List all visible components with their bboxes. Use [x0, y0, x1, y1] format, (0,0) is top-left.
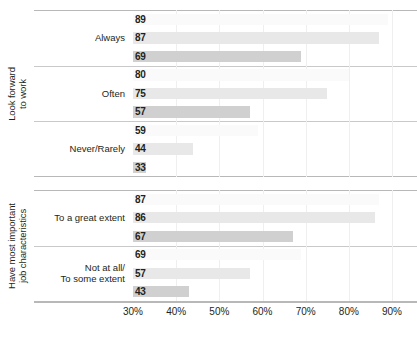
bar-track: 43: [133, 286, 417, 297]
group-axis-label-text-0: Look forwardto work: [6, 67, 28, 121]
bar-track: 69: [133, 249, 417, 260]
bar-value-label: 86: [135, 212, 146, 223]
bar-value-label: 75: [135, 88, 146, 99]
gridline-90: [392, 190, 393, 246]
bar-value-label: 69: [135, 51, 146, 62]
category-label-line: To some extent: [61, 273, 125, 284]
bar-value-label: 57: [135, 268, 146, 279]
bar-value-label: 80: [135, 69, 146, 80]
category-row: Always898769: [34, 10, 417, 66]
bar-value-label: 33: [135, 162, 146, 173]
x-tick-label-30: 30%: [123, 306, 143, 317]
group-axis-label-1: Have most importantjob characteristics: [0, 190, 34, 302]
gridline-90: [392, 246, 393, 302]
category-label: Never/Rarely: [34, 121, 129, 177]
gridline-60: [263, 121, 264, 177]
bar-series-2: [133, 88, 327, 99]
bar-track: 87: [133, 32, 417, 43]
gridline-70: [306, 246, 307, 302]
bar-track: 80: [133, 69, 417, 80]
gridline-90: [392, 10, 393, 66]
category-label: Not at all/To some extent: [34, 246, 129, 302]
category-row: To a great extent878667: [34, 190, 417, 246]
category-label-line: Never/Rarely: [70, 143, 125, 154]
category-label-line: To a great extent: [54, 212, 125, 223]
chart-panel-0: Always898769Often807557Never/Rarely59443…: [34, 10, 417, 177]
category-label-line: Always: [95, 32, 125, 43]
bar-series-2: [133, 212, 375, 223]
x-tick-label-80: 80%: [339, 306, 359, 317]
row-plot-area: 695743: [133, 246, 417, 302]
bar-track: 75: [133, 88, 417, 99]
bar-track: 57: [133, 106, 417, 117]
bar-series-1: [133, 194, 379, 205]
bar-track: 44: [133, 143, 417, 154]
bar-series-3: [133, 231, 293, 242]
bar-track: 87: [133, 194, 417, 205]
bar-value-label: 87: [135, 194, 146, 205]
bar-value-label: 44: [135, 143, 146, 154]
bar-value-label: 89: [135, 14, 146, 25]
row-plot-area: 878667: [133, 190, 417, 246]
group-axis-label-line2-0: to work: [17, 67, 28, 121]
bar-value-label: 59: [135, 125, 146, 136]
category-label-line: Often: [102, 88, 125, 99]
x-axis: 30%40%50%60%70%80%90%: [34, 302, 417, 326]
gridline-70: [306, 121, 307, 177]
category-row: Not at all/To some extent695743: [34, 246, 417, 302]
category-label: To a great extent: [34, 190, 129, 246]
bar-track: 57: [133, 268, 417, 279]
gridline-80: [349, 121, 350, 177]
bar-value-label: 69: [135, 249, 146, 260]
bar-series-2: [133, 32, 379, 43]
category-label: Often: [34, 66, 129, 122]
row-plot-area: 807557: [133, 66, 417, 122]
gridline-80: [349, 246, 350, 302]
bar-track: 59: [133, 125, 417, 136]
bar-series-3: [133, 51, 301, 62]
row-plot-area: 594433: [133, 121, 417, 177]
bar-value-label: 57: [135, 106, 146, 117]
group-axis-label-0: Look forwardto work: [0, 10, 34, 177]
category-label: Always: [34, 10, 129, 66]
category-row: Often807557: [34, 66, 417, 122]
row-plot-area: 898769: [133, 10, 417, 66]
gridline-90: [392, 121, 393, 177]
bar-track: 69: [133, 51, 417, 62]
category-row: Never/Rarely594433: [34, 121, 417, 177]
bar-track: 67: [133, 231, 417, 242]
gridline-90: [392, 66, 393, 122]
x-tick-label-50: 50%: [209, 306, 229, 317]
bar-track: 89: [133, 14, 417, 25]
bar-value-label: 87: [135, 32, 146, 43]
grouped-bar-chart: Look forwardto workAlways898769Often8075…: [0, 0, 417, 343]
x-tick-label-90: 90%: [382, 306, 402, 317]
chart-panel-1: To a great extent878667Not at all/To som…: [34, 190, 417, 302]
x-tick-label-60: 60%: [252, 306, 272, 317]
group-axis-label-line2-1: job characteristics: [17, 203, 28, 289]
group-axis-label-text-1: Have most importantjob characteristics: [6, 203, 28, 289]
bar-series-1: [133, 125, 258, 136]
bar-series-1: [133, 69, 349, 80]
category-label-line: Not at all/: [85, 262, 125, 273]
x-axis-line: [34, 302, 417, 303]
group-axis-label-line1-0: Look forward: [6, 67, 17, 121]
bar-series-2: [133, 268, 250, 279]
gridline-80: [349, 66, 350, 122]
bar-value-label: 67: [135, 231, 146, 242]
bar-track: 86: [133, 212, 417, 223]
x-tick-label-70: 70%: [296, 306, 316, 317]
x-tick-label-40: 40%: [166, 306, 186, 317]
bar-series-1: [133, 14, 388, 25]
bar-value-label: 43: [135, 286, 146, 297]
bar-series-3: [133, 106, 250, 117]
bar-series-1: [133, 249, 301, 260]
group-axis-label-line1-1: Have most important: [6, 203, 17, 289]
